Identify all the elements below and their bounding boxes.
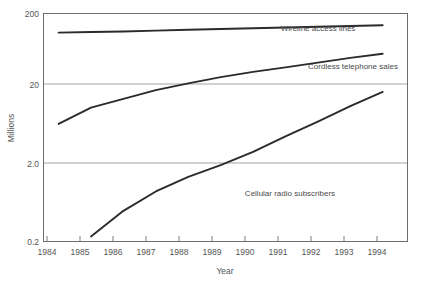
xtick-label-1994: 1994 <box>368 247 387 257</box>
xtick-label-1988: 1988 <box>170 247 189 257</box>
log-line-chart: 200 20 2.0 0.2 Millions 1984 1985 1986 <box>0 0 429 286</box>
y-axis-title: Millions <box>6 114 16 142</box>
xtick-label-1989: 1989 <box>203 247 222 257</box>
x-axis-title: Year <box>216 266 233 276</box>
xtick-label-1987: 1987 <box>137 247 156 257</box>
ytick-label-0.2: 0.2 <box>27 237 39 247</box>
series-label-wireline-access-lines: Wireline access lines <box>281 24 356 33</box>
ytick-label-2: 2.0 <box>27 159 39 169</box>
xtick-label-1992: 1992 <box>302 247 321 257</box>
xtick-label-1990: 1990 <box>236 247 255 257</box>
xtick-label-1991: 1991 <box>269 247 288 257</box>
chart-background <box>0 0 429 286</box>
chart-container: 200 20 2.0 0.2 Millions 1984 1985 1986 <box>0 0 429 286</box>
ytick-label-200: 200 <box>25 9 39 19</box>
ytick-label-20: 20 <box>30 80 40 90</box>
xtick-label-1986: 1986 <box>104 247 123 257</box>
xtick-label-1993: 1993 <box>335 247 354 257</box>
xtick-label-1984: 1984 <box>38 247 57 257</box>
series-label-cordless-telephone-sales: Cordless telephone sales <box>308 62 398 71</box>
xtick-label-1985: 1985 <box>71 247 90 257</box>
series-label-cellular-radio-subscribers: Cellular radio subscribers <box>245 189 335 198</box>
